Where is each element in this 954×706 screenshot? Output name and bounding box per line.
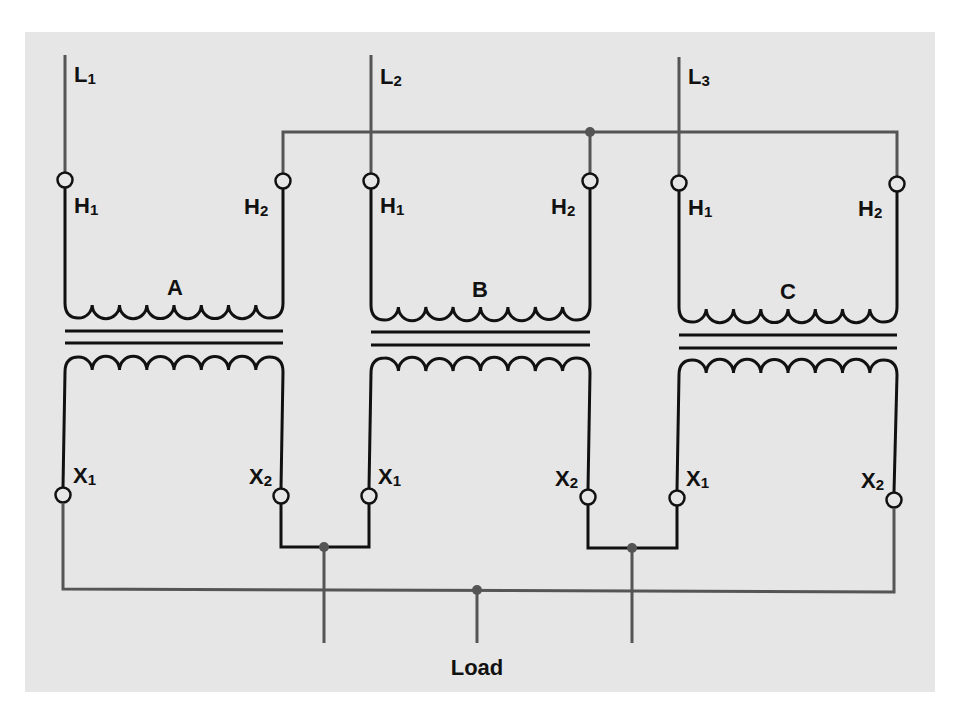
output-leads	[324, 547, 632, 643]
incoming-lines	[65, 55, 679, 175]
terminal-x1-a	[56, 488, 71, 503]
terminal-h2-c	[890, 177, 905, 192]
label-x2-b: X2	[555, 466, 578, 491]
jumper-b-x2-to-c-x1	[588, 505, 677, 548]
terminal-h1-c	[672, 176, 687, 191]
label-l3: L3	[688, 64, 710, 89]
junction-dot-ab	[319, 542, 329, 552]
junction-dot-bc	[627, 543, 637, 553]
label-h2-b: H2	[551, 194, 575, 219]
label-x1-b: X1	[378, 464, 401, 489]
secondary-coil-a	[65, 356, 283, 372]
label-x1-a: X1	[73, 463, 96, 488]
jumper-a-x2-to-b-x1	[281, 504, 369, 547]
transformer-a	[56, 173, 291, 504]
junction-dot-common	[472, 585, 482, 595]
secondary-coil-c	[679, 359, 897, 375]
transformer-wiring-diagram: L1 L2 L3 H1 H2 H1 H2 H1 H2 A B C X1 X2 X…	[0, 0, 954, 706]
terminal-x2-a	[274, 489, 289, 504]
label-h1-b: H1	[380, 193, 404, 218]
primary-coil-b	[371, 305, 590, 321]
transformer-b	[362, 174, 598, 505]
label-x2-a: X2	[249, 464, 272, 489]
label-transformer-c: C	[780, 279, 796, 304]
terminal-h1-b	[364, 174, 379, 189]
label-transformer-b: B	[472, 277, 488, 302]
label-transformer-a: A	[167, 275, 183, 300]
primary-coil-a	[65, 303, 283, 319]
label-h1-a: H1	[74, 193, 98, 218]
terminal-x1-c	[670, 491, 685, 506]
terminal-h1-a	[58, 173, 73, 188]
label-l1: L1	[74, 62, 96, 87]
label-l2: L2	[380, 64, 402, 89]
terminal-x2-c	[887, 493, 902, 508]
junction-dot-h2-bus	[585, 127, 595, 137]
label-x1-c: X1	[686, 466, 709, 491]
terminal-h2-a	[276, 174, 291, 189]
primary-neutral-bus	[283, 132, 897, 176]
label-h1-c: H1	[688, 195, 712, 220]
terminal-x1-b	[362, 489, 377, 504]
label-x2-c: X2	[861, 468, 884, 493]
secondary-jumpers	[281, 504, 677, 548]
terminal-x2-b	[581, 490, 596, 505]
transformer-c	[670, 176, 905, 508]
label-load: Load	[451, 655, 504, 680]
label-h2-a: H2	[244, 194, 268, 219]
secondary-coil-b	[371, 357, 590, 373]
label-h2-c: H2	[858, 196, 882, 221]
secondary-common-bus	[63, 503, 894, 592]
terminal-h2-b	[583, 174, 598, 189]
primary-coil-c	[679, 307, 897, 323]
